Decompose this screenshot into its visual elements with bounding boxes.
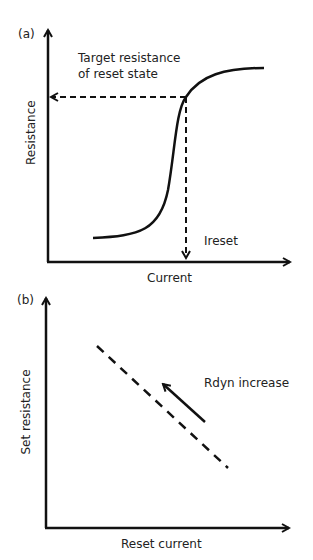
panel-a-ylabel: Resistance — [24, 105, 38, 165]
rdyn-increase-label: Rdyn increase — [204, 376, 289, 390]
ireset-label: Ireset — [204, 234, 238, 248]
panel-b-axes — [45, 298, 289, 528]
panel-a-tag: (a) — [18, 27, 35, 41]
panel-a-xlabel: Current — [147, 271, 192, 285]
panel-b-xlabel: Reset current — [121, 537, 202, 551]
set-resistance-dashed-line — [97, 346, 228, 468]
resistance-curve — [93, 68, 264, 238]
target-annotation-line1: Target resistance — [78, 51, 180, 65]
panel-b-ylabel: Set resistance — [19, 367, 33, 457]
target-annotation-line2: of reset state — [78, 67, 158, 81]
rdyn-increase-arrow — [163, 384, 205, 422]
panel-b-tag: (b) — [17, 293, 34, 307]
